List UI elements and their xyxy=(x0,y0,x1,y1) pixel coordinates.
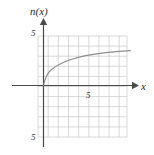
x-axis xyxy=(12,82,139,89)
y-axis-arrow-icon xyxy=(40,18,47,25)
x-axis-arrow-icon xyxy=(132,82,139,89)
y-axis xyxy=(40,18,47,147)
y-axis-tick-label-bottom: 5 xyxy=(31,132,36,142)
x-axis-label: x xyxy=(140,80,146,92)
function-curve xyxy=(44,51,131,86)
x-axis-tick-label: 5 xyxy=(86,90,91,100)
graph-figure: 5 5 5 n(x) x xyxy=(0,0,154,155)
y-axis-label: n(x) xyxy=(30,5,48,18)
grid-lines xyxy=(38,36,127,137)
coordinate-plane: 5 5 5 n(x) x xyxy=(0,0,154,155)
y-axis-tick-label-top: 5 xyxy=(31,28,36,38)
